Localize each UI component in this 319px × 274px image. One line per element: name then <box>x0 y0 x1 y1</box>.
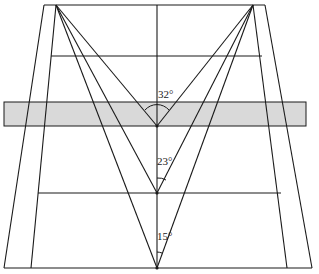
vertex-upper <box>155 124 158 127</box>
angle-arc-15 <box>157 252 162 253</box>
vertex-middle <box>155 191 158 194</box>
angle-label-32: 32° <box>158 88 173 100</box>
ray-left-middle <box>56 5 157 193</box>
right-inner-edge <box>253 5 287 268</box>
diagram-canvas: 32° 23° 15° <box>0 0 319 274</box>
left-inner-edge <box>31 5 56 268</box>
angle-label-15: 15° <box>157 230 172 242</box>
angle-label-23: 23° <box>157 155 172 167</box>
left-outer-edge <box>4 5 44 268</box>
vertex-lower <box>155 266 158 269</box>
ray-left-lower <box>56 5 157 268</box>
shaded-band <box>4 102 306 126</box>
right-outer-edge <box>265 5 312 268</box>
ray-right-lower <box>157 5 253 268</box>
